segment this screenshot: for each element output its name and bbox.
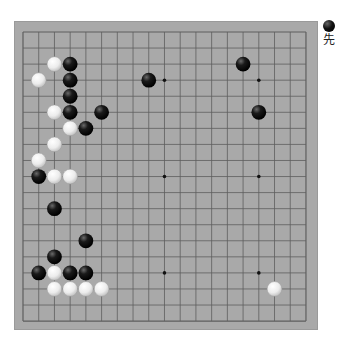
black-stone bbox=[47, 249, 62, 264]
black-stone bbox=[63, 266, 78, 281]
white-stone bbox=[31, 153, 46, 168]
black-stone bbox=[31, 266, 46, 281]
black-stone bbox=[47, 201, 62, 216]
black-stone bbox=[78, 266, 93, 281]
white-stone bbox=[47, 57, 62, 72]
first-move-label: 先 bbox=[320, 33, 338, 47]
white-stone bbox=[47, 169, 62, 184]
black-stone-icon bbox=[323, 20, 335, 32]
black-stone bbox=[141, 73, 156, 88]
white-stone bbox=[94, 282, 109, 297]
black-stone bbox=[251, 105, 266, 120]
white-stone bbox=[78, 282, 93, 297]
black-stone bbox=[63, 105, 78, 120]
white-stone bbox=[47, 282, 62, 297]
black-stone bbox=[63, 57, 78, 72]
black-stone bbox=[63, 89, 78, 104]
white-stone bbox=[63, 169, 78, 184]
black-stone bbox=[63, 73, 78, 88]
white-stone bbox=[63, 121, 78, 136]
go-board[interactable] bbox=[14, 21, 318, 330]
star-point bbox=[257, 175, 261, 179]
white-stone bbox=[47, 105, 62, 120]
star-point bbox=[163, 78, 167, 82]
star-point bbox=[163, 271, 167, 275]
black-stone bbox=[236, 57, 251, 72]
board-grid[interactable] bbox=[14, 21, 318, 330]
white-stone bbox=[47, 137, 62, 152]
black-stone bbox=[94, 105, 109, 120]
black-stone bbox=[78, 121, 93, 136]
white-stone bbox=[31, 73, 46, 88]
star-point bbox=[257, 271, 261, 275]
white-stone bbox=[267, 282, 282, 297]
black-stone bbox=[31, 169, 46, 184]
white-stone bbox=[47, 266, 62, 281]
turn-indicator: 先 bbox=[320, 18, 338, 47]
white-stone bbox=[63, 282, 78, 297]
black-stone bbox=[78, 233, 93, 248]
star-point bbox=[163, 175, 167, 179]
star-point bbox=[257, 78, 261, 82]
